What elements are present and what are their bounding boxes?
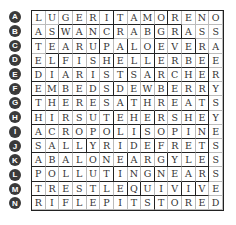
grid-cell: P — [168, 125, 182, 139]
grid-cell: E — [128, 82, 142, 96]
grid-cell: E — [87, 196, 101, 210]
grid-cell: T — [32, 39, 46, 53]
grid-cell: T — [128, 196, 142, 210]
grid-cell: E — [32, 54, 46, 68]
grid-cell: H — [182, 68, 196, 82]
grid-cell: P — [87, 125, 101, 139]
grid-cell: R — [59, 111, 73, 125]
grid-cell: E — [141, 139, 155, 153]
grid-cell: R — [196, 167, 210, 181]
row-label: A — [9, 11, 21, 23]
grid-cell: E — [73, 82, 87, 96]
grid-cell: I — [87, 68, 101, 82]
grid-cell: I — [46, 196, 60, 210]
grid-cell: A — [141, 68, 155, 82]
grid-cell: N — [155, 167, 169, 181]
grid-cell: E — [155, 54, 169, 68]
grid-cell: O — [73, 125, 87, 139]
grid-cell: P — [100, 39, 114, 53]
grid-cell: E — [196, 196, 210, 210]
grid-cell: S — [209, 167, 223, 181]
grid-cell: D — [128, 139, 142, 153]
grid-cell: E — [114, 54, 128, 68]
grid-cell: G — [59, 11, 73, 25]
grid-cell: A — [32, 25, 46, 39]
grid-cell: S — [209, 153, 223, 167]
grid-cell: R — [168, 25, 182, 39]
grid-cell: R — [155, 68, 169, 82]
grid-cell: T — [114, 11, 128, 25]
grid-cell: O — [155, 11, 169, 25]
grid-cell: U — [87, 111, 101, 125]
grid-cell: T — [196, 139, 210, 153]
grid-cell: Y — [209, 111, 223, 125]
grid-cell: V — [168, 182, 182, 196]
grid-cell: U — [87, 167, 101, 181]
grid-cell: L — [182, 153, 196, 167]
grid-cell: H — [128, 111, 142, 125]
grid-cell: A — [114, 39, 128, 53]
grid-cell: S — [128, 68, 142, 82]
grid-cell: G — [155, 25, 169, 39]
grid-cell: N — [100, 153, 114, 167]
grid-cell: L — [73, 167, 87, 181]
grid-cell: T — [32, 182, 46, 196]
grid-cell: I — [73, 54, 87, 68]
grid-cell: Y — [209, 82, 223, 96]
grid-cell: B — [141, 25, 155, 39]
grid-cell: F — [59, 54, 73, 68]
grid-cell: I — [114, 167, 128, 181]
row-label: I — [9, 126, 21, 138]
row-label: M — [9, 183, 21, 195]
grid-cell: I — [155, 182, 169, 196]
grid-cell: I — [182, 125, 196, 139]
grid-cell: R — [114, 25, 128, 39]
grid-cell: H — [46, 96, 60, 110]
grid-cell: W — [141, 82, 155, 96]
grid-cell: R — [168, 139, 182, 153]
grid-cell: L — [73, 153, 87, 167]
grid-cell: S — [196, 25, 210, 39]
grid-cell: N — [87, 25, 101, 39]
grid-cell: G — [141, 167, 155, 181]
grid-cell: L — [59, 139, 73, 153]
grid-cell: D — [87, 82, 101, 96]
grid-cell: E — [168, 167, 182, 181]
grid-cell: E — [209, 125, 223, 139]
grid-cell: L — [100, 182, 114, 196]
grid-cell: R — [182, 82, 196, 96]
grid-cell: E — [141, 111, 155, 125]
grid-cell: S — [73, 182, 87, 196]
grid-cell: I — [114, 139, 128, 153]
grid-cell: S — [87, 54, 101, 68]
grid-cell: E — [168, 96, 182, 110]
grid-cell: A — [209, 39, 223, 53]
grid-cell: E — [155, 39, 169, 53]
grid-cell: R — [182, 196, 196, 210]
grid-cell: O — [141, 39, 155, 53]
grid-cell: W — [59, 25, 73, 39]
grid-cell: E — [32, 82, 46, 96]
grid-cell: E — [73, 11, 87, 25]
grid-cell: A — [32, 125, 46, 139]
grid-cell: E — [209, 182, 223, 196]
grid-cell: D — [32, 68, 46, 82]
grid-cell: F — [59, 196, 73, 210]
grid-cell: R — [100, 139, 114, 153]
grid-cell: E — [46, 39, 60, 53]
grid-cell: E — [182, 139, 196, 153]
grid-cell: U — [46, 11, 60, 25]
grid-cell: V — [168, 39, 182, 53]
grid-cell: O — [87, 153, 101, 167]
grid-cell: H — [100, 54, 114, 68]
grid-cell: E — [182, 39, 196, 53]
grid-cell: L — [128, 54, 142, 68]
grid-cell: L — [59, 167, 73, 181]
row-label: E — [9, 68, 21, 80]
grid-cell: Y — [168, 153, 182, 167]
grid-cell: T — [155, 196, 169, 210]
grid-cell: B — [155, 82, 169, 96]
row-label: G — [9, 97, 21, 109]
grid-cell: O — [155, 125, 169, 139]
grid-cell: R — [155, 96, 169, 110]
